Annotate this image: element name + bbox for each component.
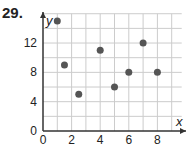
data-point (154, 69, 161, 76)
data-point (97, 47, 104, 54)
data-point (140, 40, 147, 47)
grid-lines (43, 14, 182, 131)
data-point (111, 84, 118, 91)
x-tick-label: 6 (125, 133, 132, 145)
y-tick-label: 0 (30, 124, 37, 138)
scatter-plot: xy 0246804812 (0, 0, 189, 145)
x-tick-label: 0 (40, 133, 47, 145)
axes: xy (40, 12, 186, 134)
y-tick-label: 12 (24, 36, 38, 50)
data-point (75, 91, 82, 98)
x-tick-label: 4 (97, 133, 104, 145)
x-axis-label: x (175, 114, 183, 129)
y-tick-label: 4 (30, 95, 37, 109)
y-axis-label: y (45, 13, 54, 28)
data-point (61, 62, 68, 69)
x-tick-label: 8 (154, 133, 161, 145)
tick-labels: 0246804812 (24, 36, 161, 145)
x-tick-label: 2 (68, 133, 75, 145)
data-point (54, 18, 61, 25)
y-tick-label: 8 (30, 65, 37, 79)
data-point (125, 69, 132, 76)
